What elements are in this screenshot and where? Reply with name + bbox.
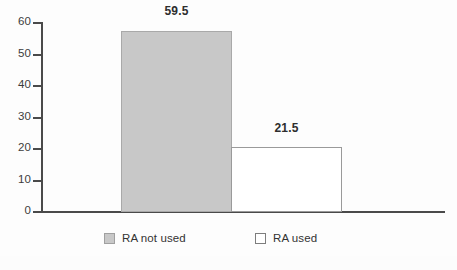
y-axis-tick-label-20: 20 <box>1 142 31 154</box>
y-axis-tick-label-30: 30 <box>1 111 31 123</box>
y-axis-tick-label-60: 60 <box>1 16 31 28</box>
y-axis-tick-40 <box>33 85 42 87</box>
y-axis-tick-20 <box>33 148 42 150</box>
bar-value-label-ra-not-used: 59.5 <box>121 5 232 17</box>
y-axis-tick-label-10: 10 <box>1 174 31 186</box>
bar-ra-used[interactable] <box>231 147 342 212</box>
page-bottom-margin <box>0 256 457 270</box>
legend-label-ra-not-used: RA not used <box>122 232 186 244</box>
chart-legend: RA not used RA used <box>0 231 457 249</box>
bar-value-label-ra-used: 21.5 <box>231 122 342 134</box>
y-axis-tick-10 <box>33 180 42 182</box>
legend-label-ra-used: RA used <box>273 232 317 244</box>
y-axis-tick-60 <box>33 22 42 24</box>
bar-ra-not-used[interactable] <box>121 31 232 212</box>
legend-entry-ra-not-used[interactable]: RA not used <box>104 231 186 245</box>
y-axis-tick-label-0: 0 <box>1 205 31 217</box>
y-axis-tick-30 <box>33 117 42 119</box>
y-axis-tick-label-50: 50 <box>1 48 31 60</box>
hollow-square-icon <box>255 233 266 244</box>
plot-area: 60 50 40 30 20 10 0 59.5 21.5 <box>0 0 457 225</box>
bar-chart: 60 50 40 30 20 10 0 59.5 21.5 RA not use… <box>0 0 457 270</box>
filled-square-icon <box>104 233 115 244</box>
y-axis-tick-label-40: 40 <box>1 79 31 91</box>
y-axis-tick-0 <box>33 211 42 213</box>
y-axis-tick-50 <box>33 54 42 56</box>
legend-entry-ra-used[interactable]: RA used <box>255 231 317 245</box>
